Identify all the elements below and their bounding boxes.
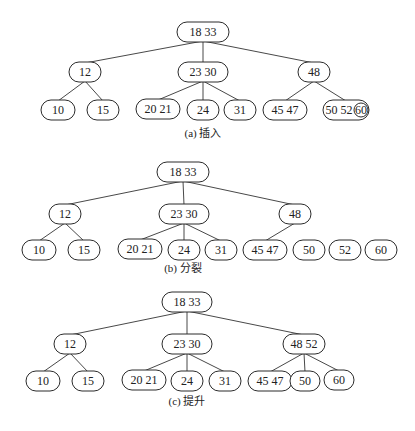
tree-edge	[85, 81, 103, 101]
node-keys: 20 21	[145, 102, 172, 116]
tree-edge	[70, 311, 187, 335]
tree-node: 15	[87, 100, 119, 120]
tree-node: 60	[365, 240, 397, 260]
tree-node: 12	[69, 62, 101, 82]
node-keys: 45 47	[257, 374, 284, 388]
tree-node: 15	[68, 240, 100, 260]
tree-node: 50 5260	[323, 100, 369, 120]
tree-node: 52	[329, 240, 361, 260]
tree-edge	[203, 41, 314, 63]
tree-edge	[187, 353, 225, 372]
tree-edge	[140, 223, 184, 240]
node-keys: 50	[303, 243, 315, 257]
tree-node: 45 47	[263, 100, 307, 120]
tree-edge	[265, 223, 295, 241]
tree-edge	[65, 223, 84, 241]
node-keys: 12	[59, 207, 71, 221]
tree-node: 18 33	[162, 292, 212, 312]
tree-edge	[203, 81, 240, 101]
tree-node: 18 33	[177, 22, 229, 42]
node-keys: 23 30	[174, 337, 201, 351]
panel-insert: 18 331223 3048101520 21243145 4750 5260(…	[41, 22, 369, 140]
node-keys: 20 21	[131, 373, 158, 387]
tree-node: 45 47	[248, 371, 292, 391]
tree-node: 48	[279, 204, 311, 224]
node-keys: 31	[215, 243, 227, 257]
tree-edge	[58, 81, 85, 101]
tree-edge	[70, 353, 88, 372]
node-keys: 15	[82, 374, 94, 388]
tree-node: 31	[224, 100, 256, 120]
tree-node: 23 30	[178, 62, 228, 82]
tree-edge	[39, 223, 65, 241]
tree-node: 24	[171, 371, 203, 391]
tree-node: 48 52	[283, 334, 325, 354]
tree-node: 15	[72, 371, 104, 391]
node-keys: 24	[181, 374, 193, 388]
tree-edge	[187, 311, 304, 335]
node-keys: 60	[375, 243, 387, 257]
node-keys: 50 52	[326, 103, 353, 117]
node-keys: 31	[234, 103, 246, 117]
node-keys: 45 47	[272, 103, 299, 117]
node-keys: 10	[37, 374, 49, 388]
btree-diagram: 18 331223 3048101520 21243145 4750 5260(…	[0, 0, 415, 431]
node-keys: 24	[197, 103, 209, 117]
panel-promote: 18 331223 3048 52101520 21243145 475060(…	[26, 292, 354, 408]
node-keys: 52	[339, 243, 351, 257]
tree-edge	[184, 223, 221, 241]
node-keys: 24	[178, 243, 190, 257]
node-keys: 18 33	[174, 295, 201, 309]
node-keys: 48 52	[291, 337, 318, 351]
node-keys: 18 33	[190, 25, 217, 39]
tree-node: 24	[168, 240, 200, 260]
node-keys: 23 30	[171, 207, 198, 221]
panel-caption: (b) 分裂	[164, 262, 202, 275]
tree-edge	[270, 353, 304, 372]
tree-node: 31	[209, 371, 241, 391]
node-keys: 12	[64, 337, 76, 351]
tree-node: 12	[54, 334, 86, 354]
node-keys: 48	[289, 207, 301, 221]
node-keys: 10	[52, 103, 64, 117]
tree-node: 10	[26, 371, 60, 391]
tree-edge	[65, 181, 183, 205]
tree-edge	[183, 181, 295, 205]
node-keys: 10	[33, 243, 45, 257]
node-keys: 20 21	[127, 242, 154, 256]
tree-edge	[43, 353, 70, 372]
tree-edge	[144, 353, 187, 371]
tree-node: 48	[298, 62, 330, 82]
tree-edge	[158, 81, 203, 100]
tree-node: 20 21	[118, 239, 162, 259]
panel-caption: (a) 插入	[185, 126, 222, 140]
tree-edge	[285, 81, 314, 101]
tree-node: 20 21	[122, 370, 166, 390]
tree-node: 50	[290, 371, 320, 391]
node-keys: 48	[308, 65, 320, 79]
node-keys: 18 33	[170, 165, 197, 179]
tree-node: 20 21	[136, 99, 180, 119]
node-keys: 31	[219, 374, 231, 388]
tree-edge	[314, 81, 346, 101]
tree-node: 23 30	[162, 334, 212, 354]
tree-edge	[183, 181, 184, 205]
node-keys: 15	[97, 103, 109, 117]
tree-node: 24	[187, 100, 219, 120]
inserted-key: 60	[355, 103, 367, 117]
tree-node: 45 47	[243, 240, 287, 260]
node-keys: 45 47	[252, 243, 279, 257]
node-keys: 23 30	[190, 65, 217, 79]
tree-node: 10	[41, 100, 75, 120]
panel-caption: (c) 提升	[169, 395, 206, 408]
node-keys: 60	[333, 373, 345, 387]
tree-node: 12	[49, 204, 81, 224]
node-keys: 12	[79, 65, 91, 79]
node-keys: 15	[78, 243, 90, 257]
tree-edge	[85, 41, 203, 63]
tree-node: 31	[205, 240, 237, 260]
tree-node: 60	[324, 370, 354, 390]
panel-split: 18 331223 3048101520 21243145 47505260(b…	[22, 162, 397, 275]
node-keys: 50	[299, 374, 311, 388]
tree-edge	[304, 353, 339, 371]
